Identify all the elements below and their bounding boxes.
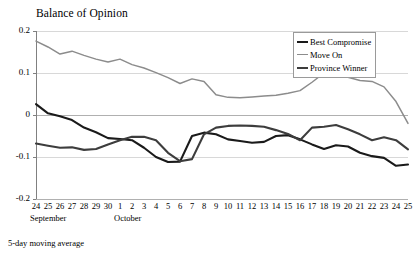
- x-tick-label: 24: [32, 201, 41, 211]
- x-tick-label: 25: [44, 201, 53, 211]
- chart-legend: Best CompromiseMove OnProvince Winner: [293, 32, 376, 78]
- x-tick-label: 28: [80, 201, 89, 211]
- x-tick-label: 20: [344, 201, 353, 211]
- month-label: October: [114, 213, 141, 223]
- legend-item[interactable]: Province Winner: [297, 61, 371, 74]
- x-tick-label: 29: [92, 201, 101, 211]
- legend-label: Move On: [310, 50, 342, 60]
- legend-label: Province Winner: [310, 63, 367, 73]
- x-tick-label: 19: [332, 201, 341, 211]
- y-tick-label: 0: [2, 109, 30, 119]
- x-tick-label: 8: [202, 201, 206, 211]
- y-tick-label: -0.1: [2, 151, 30, 161]
- x-tick-label: 21: [356, 201, 365, 211]
- legend-item[interactable]: Move On: [297, 48, 371, 61]
- x-tick-label: 15: [284, 201, 293, 211]
- y-tick-label: 0.1: [2, 67, 30, 77]
- x-tick-label: 1: [118, 201, 122, 211]
- legend-swatch-icon: [297, 67, 308, 69]
- x-tick-label: 2: [130, 201, 134, 211]
- chart-footnote: 5-day moving average: [8, 238, 84, 248]
- legend-swatch-icon: [297, 54, 308, 55]
- x-tick-label: 25: [404, 201, 413, 211]
- legend-swatch-icon: [297, 41, 308, 43]
- y-tick-label: -0.2: [2, 193, 30, 203]
- x-tick-label: 6: [178, 201, 182, 211]
- x-tick-label: 23: [380, 201, 389, 211]
- x-tick-label: 5: [166, 201, 170, 211]
- x-tick-label: 17: [308, 201, 317, 211]
- x-tick-label: 14: [272, 201, 281, 211]
- x-tick-label: 4: [154, 201, 158, 211]
- x-tick-label: 27: [68, 201, 77, 211]
- month-label: September: [30, 213, 66, 223]
- x-tick-label: 3: [142, 201, 146, 211]
- x-tick-label: 7: [190, 201, 194, 211]
- x-tick-label: 10: [224, 201, 233, 211]
- x-tick-label: 18: [320, 201, 329, 211]
- chart-figure: Balance of Opinion 0.20.10-0.1-0.2 24252…: [0, 0, 414, 258]
- x-tick-label: 22: [368, 201, 377, 211]
- x-tick-label: 12: [248, 201, 257, 211]
- x-tick-label: 13: [260, 201, 269, 211]
- x-tick-label: 16: [296, 201, 305, 211]
- y-tick-label: 0.2: [2, 25, 30, 35]
- x-tick-label: 11: [236, 201, 244, 211]
- x-tick-label: 9: [214, 201, 218, 211]
- x-tick-label: 24: [392, 201, 401, 211]
- legend-item[interactable]: Best Compromise: [297, 35, 371, 48]
- x-tick-label: 30: [104, 201, 113, 211]
- legend-label: Best Compromise: [310, 37, 371, 47]
- x-axis-tick-labels: 2425262728293012345678910111213141516171…: [36, 201, 408, 214]
- x-tick-label: 26: [56, 201, 65, 211]
